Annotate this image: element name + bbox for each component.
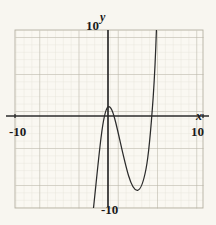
- graph-figure: [0, 0, 216, 225]
- y-axis-name-label: y: [100, 11, 105, 23]
- y-axis-top-tick-label: 10: [86, 19, 99, 32]
- x-axis-right-tick-label: 10: [191, 125, 204, 138]
- grid-panel: [15, 30, 204, 209]
- y-axis-bottom-tick-label: -10: [101, 203, 118, 216]
- x-axis-left-tick-label: -10: [9, 125, 26, 138]
- x-axis-name-label: x: [196, 110, 202, 122]
